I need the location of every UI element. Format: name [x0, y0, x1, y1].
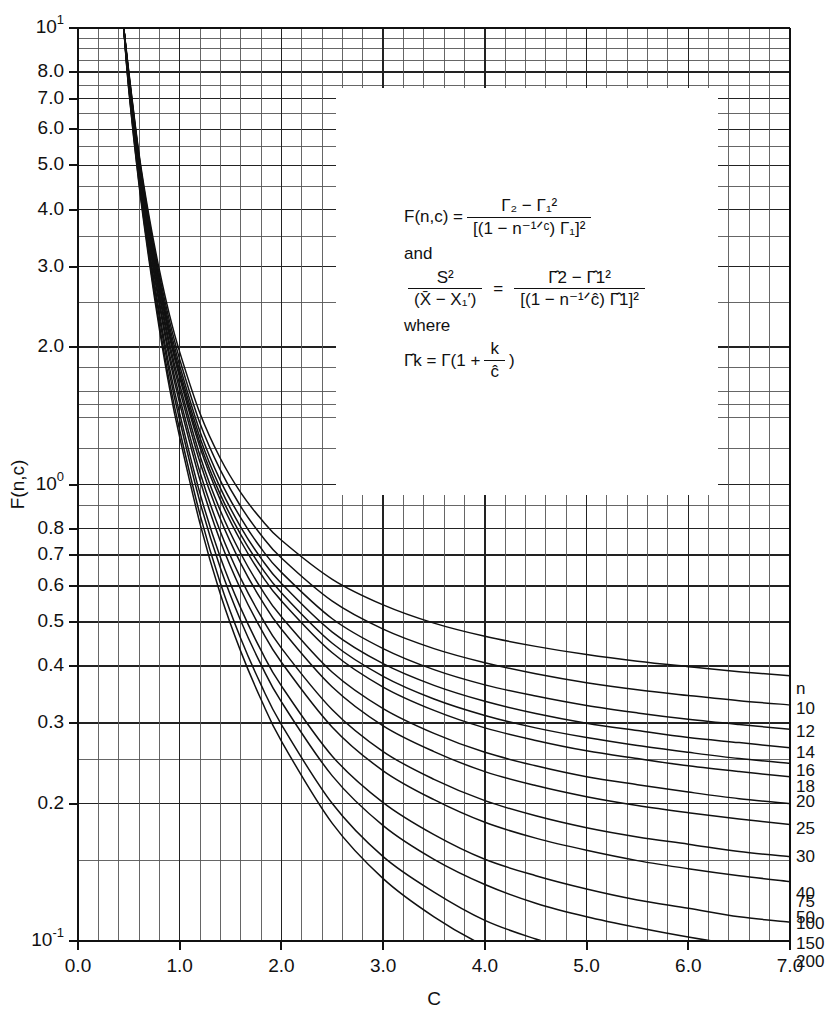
ytick-label: 101 [36, 12, 64, 37]
xtick-label: 1.0 [167, 955, 193, 976]
xtick-label: 5.0 [573, 955, 599, 976]
series-label-200: 200 [796, 952, 824, 971]
formula-3-lhs: Γ̂k = Γ(1 + [404, 351, 480, 371]
series-label-100: 100 [796, 914, 824, 933]
formula-line-3: Γ̂k = Γ(1 + k ĉ ) [404, 339, 734, 381]
series-label-150: 150 [796, 934, 824, 953]
ytick-label: 5.0 [38, 153, 64, 174]
ytick-label: 4.0 [38, 198, 64, 219]
series-label-10: 10 [796, 699, 815, 718]
series-labels: n1012141618202530405075100150200 [796, 679, 824, 971]
ytick-label: 0.3 [38, 711, 64, 732]
ytick-label: 2.0 [38, 335, 64, 356]
ytick-label: 6.0 [38, 117, 64, 138]
ytick-label: 0.8 [38, 517, 64, 538]
ytick-label: 0.5 [38, 610, 64, 631]
ytick-label: 3.0 [38, 255, 64, 276]
ytick-label: 10-1 [31, 925, 64, 950]
formula-2-lhs-denominator: (X̄ − X₁′) [408, 288, 482, 310]
formula-connector-and: and [404, 244, 734, 264]
formula-2-denominator: [(1 − n⁻¹ᐟĉ) Γ̂1]² [514, 288, 645, 310]
formula-2-equals: = [493, 279, 503, 299]
ytick-label: 0.4 [38, 654, 65, 675]
xtick-label: 0.0 [65, 955, 91, 976]
series-label-14: 14 [796, 743, 815, 762]
chart-figure: 1018.07.06.05.04.03.02.01000.80.70.60.50… [0, 0, 839, 1027]
formula-1-lhs: F(n,c) = [404, 207, 463, 227]
series-label-12: 12 [796, 722, 815, 741]
formula-2-rhs-fraction: Γ̂2 − Γ̂1² [(1 − n⁻¹ᐟĉ) Γ̂1]² [514, 268, 645, 310]
y-axis-title: F(n,c) [7, 460, 28, 510]
formula-3-numerator: k [484, 339, 505, 360]
formula-3-close-paren: ) [509, 351, 515, 371]
formula-2-numerator: Γ̂2 − Γ̂1² [542, 268, 617, 289]
formula-block: F(n,c) = Γ₂ − Γ₁² [(1 − n⁻¹ᐟᶜ) Γ₁]² and … [404, 196, 734, 383]
formula-2-lhs-fraction: S² (X̄ − X₁′) [408, 268, 482, 310]
x-axis-title: C [427, 988, 441, 1009]
formula-1-denominator: [(1 − n⁻¹ᐟᶜ) Γ₁]² [467, 217, 591, 239]
series-label-25: 25 [796, 819, 815, 838]
ytick-label: 7.0 [38, 87, 64, 108]
xtick-label: 3.0 [370, 955, 396, 976]
formula-2-lhs-numerator: S² [431, 268, 460, 289]
ytick-label: 100 [36, 469, 64, 494]
ytick-label: 0.7 [38, 543, 64, 564]
xtick-label: 6.0 [675, 955, 701, 976]
formula-connector-where: where [404, 316, 734, 336]
series-label-header: n [796, 679, 805, 698]
formula-line-1: F(n,c) = Γ₂ − Γ₁² [(1 − n⁻¹ᐟᶜ) Γ₁]² [404, 196, 734, 238]
ytick-label: 0.6 [38, 574, 64, 595]
formula-3-fraction: k ĉ [484, 339, 505, 381]
ytick-label: 8.0 [38, 60, 64, 81]
formula-1-fraction: Γ₂ − Γ₁² [(1 − n⁻¹ᐟᶜ) Γ₁]² [467, 196, 591, 238]
formula-line-2: S² (X̄ − X₁′) = Γ̂2 − Γ̂1² [(1 − n⁻¹ᐟĉ) … [404, 268, 734, 310]
series-label-75: 75 [796, 892, 815, 911]
xtick-label: 4.0 [472, 955, 498, 976]
series-label-20: 20 [796, 792, 815, 811]
formula-3-denominator: ĉ [484, 360, 505, 382]
series-label-30: 30 [796, 847, 815, 866]
formula-1-numerator: Γ₂ − Γ₁² [495, 196, 563, 217]
ytick-label: 0.2 [38, 792, 64, 813]
xtick-label: 2.0 [268, 955, 294, 976]
